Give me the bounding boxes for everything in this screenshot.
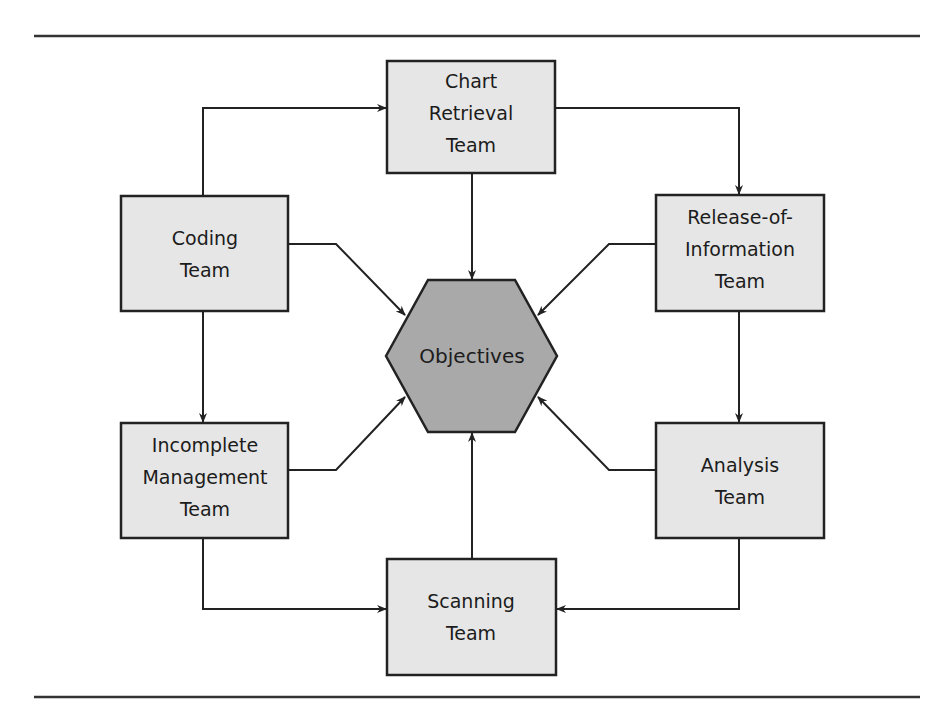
team-label-line: Coding xyxy=(172,227,238,249)
team-label-line: Management xyxy=(142,466,267,488)
team-label-line: Team xyxy=(445,622,496,644)
team-box-scanning: Scanning Team xyxy=(387,559,556,675)
team-label-line: Scanning xyxy=(427,590,515,612)
team-label-line: Chart xyxy=(445,70,497,92)
team-label-line: Team xyxy=(179,259,230,281)
team-label-line: Team xyxy=(714,270,765,292)
team-objectives-diagram: Objectives Chart Retrieval Team Coding T… xyxy=(0,0,941,718)
team-box-chart-retrieval: Chart Retrieval Team xyxy=(387,61,555,173)
team-label-line: Team xyxy=(179,498,230,520)
team-label-line: Information xyxy=(685,238,795,260)
objectives-label: Objectives xyxy=(419,344,524,368)
team-box-analysis: Analysis Team xyxy=(656,423,824,538)
team-box-incomplete-management: Incomplete Management Team xyxy=(121,423,288,538)
team-label-line: Retrieval xyxy=(429,102,513,124)
team-label-line: Release-of- xyxy=(687,206,793,228)
objectives-hexagon: Objectives xyxy=(386,280,557,432)
team-box-release-of-information: Release-of- Information Team xyxy=(656,195,824,311)
team-label-line: Team xyxy=(714,486,765,508)
team-label-line: Team xyxy=(445,134,496,156)
team-label-line: Analysis xyxy=(701,454,779,476)
team-box-coding: Coding Team xyxy=(121,196,288,311)
team-label-line: Incomplete xyxy=(152,434,258,456)
